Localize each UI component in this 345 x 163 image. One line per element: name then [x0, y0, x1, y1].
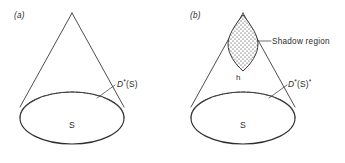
- panel-label-a: (a): [14, 11, 25, 20]
- panel-label-b: (b): [190, 11, 201, 20]
- domain-label-b-arg: (S): [297, 79, 309, 89]
- base-region-label-a: S: [69, 120, 75, 130]
- domain-label-a: D*(S): [117, 78, 138, 89]
- figure-container: (a) S D*(S): [0, 0, 345, 163]
- shadow-region-label: Shadow region: [272, 37, 330, 46]
- height-label-h: h: [236, 73, 241, 82]
- cone-diagram: (a) S D*(S): [0, 0, 345, 163]
- domain-label-b-suffix: *: [309, 78, 312, 85]
- base-region-label-b: S: [240, 120, 246, 130]
- domain-label-a-arg: (S): [126, 79, 138, 89]
- domain-label-b: D*(S)*: [288, 78, 312, 89]
